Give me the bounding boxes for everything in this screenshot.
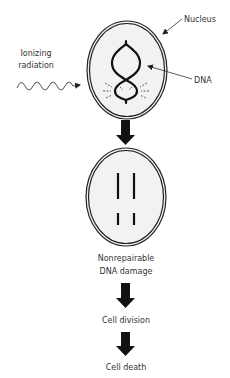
damage-label-line2: DNA damage <box>100 267 153 276</box>
radiation-label-line1: Ionizing <box>20 49 51 58</box>
radiation-label-line2: radiation <box>18 61 54 70</box>
down-arrow-icon <box>116 283 135 308</box>
nucleus-label: Nucleus <box>184 15 216 24</box>
nucleus-damaged <box>86 148 166 246</box>
wave-arrow-icon <box>17 82 80 90</box>
damage-label-line1: Nonrepairable <box>98 254 155 263</box>
nucleus-intact <box>87 21 167 119</box>
nucleus-pointer <box>163 19 182 34</box>
cell-division-label: Cell division <box>102 316 150 325</box>
dna-label: DNA <box>194 76 212 85</box>
radiation-dna-damage-diagram: Nucleus DNA Ionizing radiation Nonrepair… <box>0 0 230 378</box>
down-arrow-icon <box>116 120 135 145</box>
down-arrow-icon <box>116 332 135 356</box>
cell-death-label: Cell death <box>106 363 147 372</box>
